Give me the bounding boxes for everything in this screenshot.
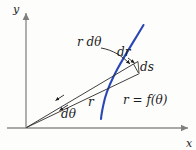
dr-label: dr [117, 46, 130, 58]
r-label: r [88, 96, 94, 108]
diagram-canvas [0, 0, 196, 150]
r-dtheta-segment [134, 64, 139, 73]
y-axis-label: y [13, 4, 19, 15]
polar-equation-label: r = f(θ) [123, 94, 167, 106]
ds-segment [138, 62, 139, 74]
outer-radius-ray [27, 64, 134, 128]
dtheta-marker-arrow-upper [56, 95, 65, 101]
dtheta-label: dθ [61, 108, 76, 120]
r-dtheta-label: r dθ [77, 36, 101, 48]
ds-label: ds [140, 61, 154, 73]
polar-arc-length-diagram: y x r dθ dr ds r dθ r = f(θ) [0, 0, 196, 150]
x-axis-label: x [186, 138, 192, 149]
